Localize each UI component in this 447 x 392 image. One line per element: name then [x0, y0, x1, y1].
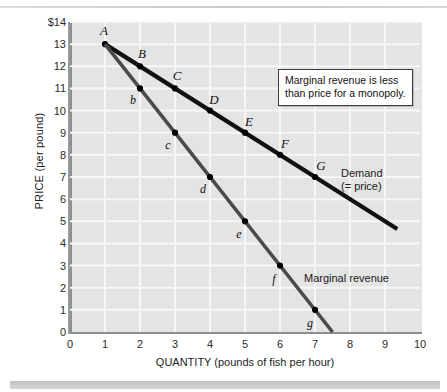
data-point	[137, 63, 143, 69]
point-label-E: E	[245, 114, 253, 130]
data-point	[172, 130, 178, 136]
bottom-divider	[10, 381, 440, 389]
economics-figure: 012345678910111213$14 012345678910 PRICE…	[0, 0, 447, 392]
point-label-G: G	[316, 158, 325, 174]
marginal-revenue-series-label: Marginal revenue	[304, 272, 389, 285]
data-point	[277, 152, 283, 158]
point-label-B: B	[138, 46, 146, 62]
point-label-d: d	[200, 182, 206, 197]
data-point	[172, 85, 178, 91]
data-point	[277, 262, 283, 268]
data-point	[242, 130, 248, 136]
data-point	[207, 107, 213, 113]
point-label-D: D	[209, 92, 218, 108]
data-point	[207, 174, 213, 180]
point-label-e: e	[236, 227, 241, 242]
data-point	[242, 218, 248, 224]
point-label-f: f	[272, 271, 275, 286]
callout-note: Marginal revenue is less than price for …	[278, 69, 413, 106]
point-label-c: c	[165, 137, 170, 152]
point-label-b: b	[130, 93, 136, 108]
point-label-C: C	[173, 68, 182, 84]
chart-overlay	[0, 0, 447, 392]
point-label-A: A	[100, 23, 108, 39]
data-point	[312, 307, 318, 313]
point-label-g: g	[307, 315, 313, 330]
data-point	[137, 85, 143, 91]
point-label-F: F	[281, 136, 289, 152]
demand-series-label: Demand (= price)	[341, 167, 383, 193]
data-point	[312, 174, 318, 180]
